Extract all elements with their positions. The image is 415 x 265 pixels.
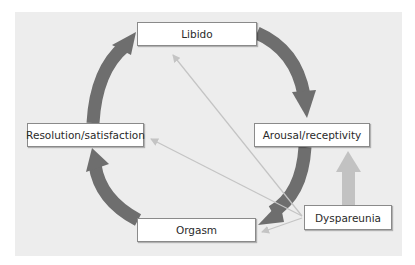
cycle-arrow-libido-to-arousal xyxy=(257,33,316,118)
node-libido-label: Libido xyxy=(181,28,212,40)
cycle-arrow-resolution-to-libido xyxy=(93,32,136,123)
node-arousal: Arousal/receptivity xyxy=(254,123,370,147)
cycle-arrow-orgasm-to-resolution xyxy=(86,148,138,220)
node-resolution: Resolution/satisfaction xyxy=(27,123,144,147)
node-orgasm-label: Orgasm xyxy=(176,224,217,236)
node-resolution-label: Resolution/satisfaction xyxy=(26,129,145,141)
node-orgasm: Orgasm xyxy=(137,218,256,242)
node-dyspareunia: Dyspareunia xyxy=(304,205,392,230)
node-arousal-label: Arousal/receptivity xyxy=(263,129,362,141)
influence-arrow-dyspareunia-to-arousal xyxy=(336,151,361,205)
influence-line-dyspareunia-to-resolution xyxy=(151,139,302,216)
node-libido: Libido xyxy=(137,22,257,46)
node-dyspareunia-label: Dyspareunia xyxy=(315,212,381,224)
